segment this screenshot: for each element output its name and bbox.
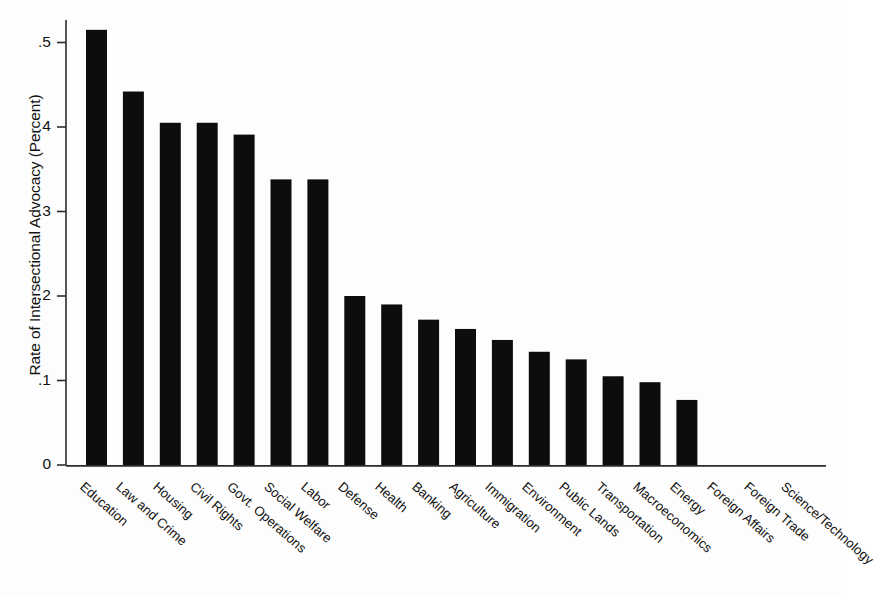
bar (640, 382, 661, 465)
bar (676, 400, 697, 465)
bar (271, 179, 292, 465)
bar (566, 359, 587, 465)
bar (418, 320, 439, 465)
y-axis-tick-label: .3 (11, 203, 51, 219)
bar (86, 30, 107, 465)
bar (307, 179, 328, 465)
bar (123, 92, 144, 465)
bar (603, 376, 624, 465)
y-axis-ticks (57, 43, 66, 466)
bar (381, 304, 402, 465)
bar (492, 340, 513, 465)
bar (529, 352, 550, 465)
bar (197, 123, 218, 465)
y-axis-tick-label: .1 (11, 372, 51, 388)
y-axis-tick-label: 0 (11, 456, 51, 472)
bars-layer (86, 30, 697, 465)
bar (234, 135, 255, 465)
y-axis-tick-label: .4 (11, 118, 51, 134)
bar (455, 329, 476, 465)
bar (160, 123, 181, 465)
bar (344, 296, 365, 465)
y-axis-tick-label: .5 (11, 34, 51, 50)
y-axis-tick-label: .2 (11, 287, 51, 303)
